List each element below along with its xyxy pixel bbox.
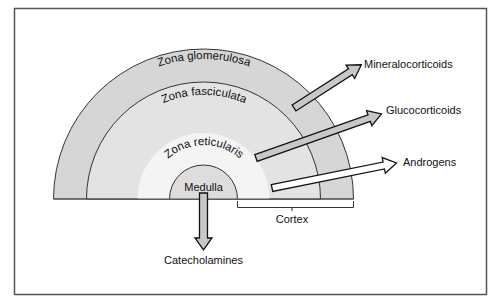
label-androgens: Androgens (403, 156, 457, 168)
label-glucocorticoids: Glucocorticoids (386, 104, 462, 116)
label-cortex: Cortex (276, 213, 309, 225)
label-catecholamines: Catecholamines (164, 254, 243, 266)
label-mineralocorticoids: Mineralocorticoids (364, 58, 453, 70)
adrenal-diagram: Zona glomerulosa Zona fasciculata Zona r… (0, 0, 495, 306)
label-medulla: Medulla (184, 181, 223, 193)
